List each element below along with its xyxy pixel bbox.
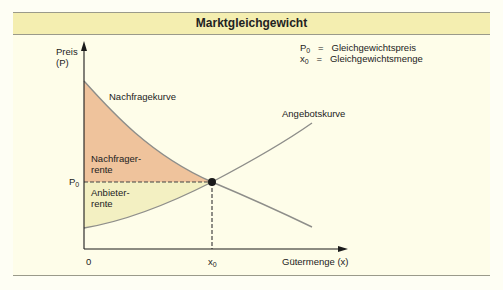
origin-label: 0: [86, 256, 91, 267]
market-equilibrium-diagram: [0, 0, 503, 290]
supply-curve-label: Angebotskurve: [282, 108, 345, 119]
demand-curve-label: Nachfragekurve: [109, 91, 176, 102]
consumer-surplus-label: Nachfrager- rente: [91, 153, 141, 175]
y-axis-label: Preis (P): [56, 46, 78, 68]
x-axis-label: Gütermenge (x): [282, 256, 349, 267]
p0-label: P0: [69, 176, 79, 190]
producer-surplus-label: Anbieter- rente: [91, 187, 130, 209]
x0-label: x0: [208, 256, 217, 270]
y-axis-arrow-icon: [81, 41, 87, 51]
legend-x0: x0 = Gleichgewichtsmenge: [300, 53, 423, 67]
x-axis-arrow-icon: [338, 246, 348, 252]
equilibrium-point: [208, 178, 216, 186]
